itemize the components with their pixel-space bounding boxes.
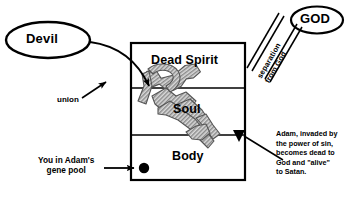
union-label: union (57, 96, 79, 104)
gene-pool-label: You in Adam's gene pool (38, 155, 94, 176)
tier-label-soul: Soul (173, 103, 200, 116)
adam-note-label: Adam, invaded by the power of sin, becom… (276, 129, 338, 177)
tier-label-body: Body (172, 150, 204, 163)
union-arrow (82, 82, 106, 98)
diagram-canvas: Devil GOD Dead Spirit Soul Body union se… (0, 0, 346, 201)
tier-label-dead-spirit: Dead Spirit (151, 54, 218, 67)
devil-label: Devil (26, 32, 58, 46)
gene-pool-dot (139, 163, 149, 173)
god-label: GOD (300, 12, 330, 26)
